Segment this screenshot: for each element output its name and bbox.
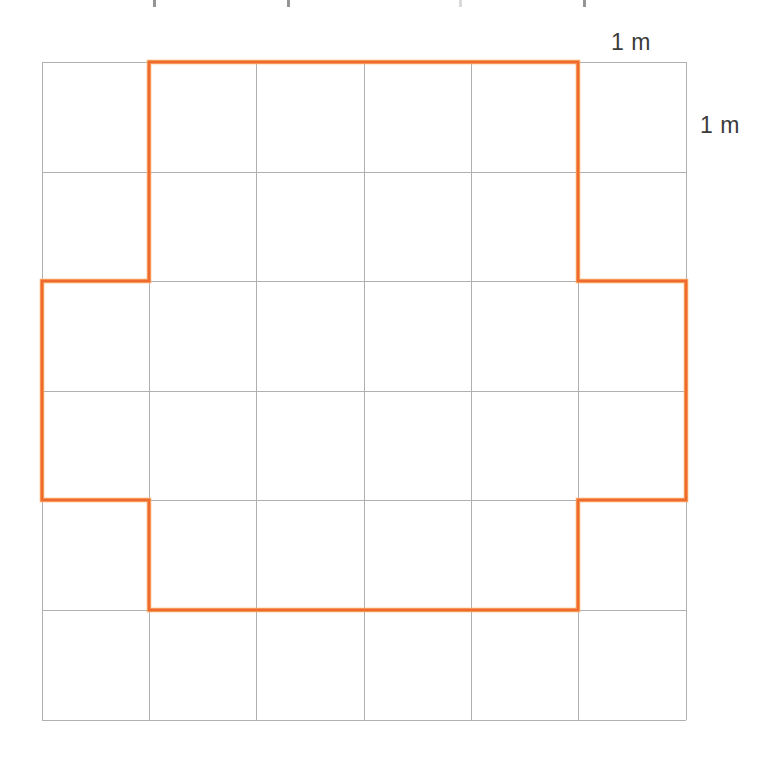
grid-figure bbox=[0, 0, 771, 757]
unit-label-top: 1 m bbox=[611, 31, 651, 54]
unit-label-right: 1 m bbox=[700, 114, 740, 137]
grid-lines bbox=[42, 62, 686, 720]
diagram-stage: 1 m 1 m bbox=[0, 0, 771, 757]
